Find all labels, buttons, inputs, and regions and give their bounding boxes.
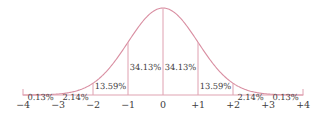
segment-divider-lines: [58, 8, 268, 95]
tick-label-zero0: 0: [160, 99, 166, 110]
segment-label: 0.13%: [272, 92, 298, 102]
segment-label: 13.59%: [95, 81, 126, 91]
segment-label: 2.14%: [62, 92, 88, 102]
tick-label-pos4: +4: [296, 99, 310, 110]
tick-label-pos3: +3: [261, 99, 275, 110]
segment-label: 0.13%: [27, 92, 53, 102]
segment-label: 34.13%: [130, 62, 161, 72]
segment-label: 2.14%: [237, 92, 263, 102]
segment-label: 13.59%: [200, 81, 231, 91]
tick-label-neg4: −4: [16, 99, 30, 110]
tick-label-pos2: +2: [226, 99, 240, 110]
tick-label-neg3: −3: [51, 99, 65, 110]
tick-label-neg2: −2: [86, 99, 100, 110]
normal-distribution-chart: 0.13%2.14%13.59%34.13%34.13%13.59%2.14%0…: [0, 0, 323, 118]
tick-label-pos1: +1: [191, 99, 205, 110]
tick-label-neg1: −1: [121, 99, 135, 110]
segment-label: 34.13%: [165, 62, 196, 72]
